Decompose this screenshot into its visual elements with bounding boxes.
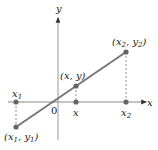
point-x2-y2-label: (x2, y2) [112, 36, 147, 49]
line-through-points-diagram: y x 0 x1 x x2 (x1, y1) (x, y) (x2, y2) [0, 0, 158, 150]
axis-point-x2 [123, 99, 128, 104]
diagram-canvas: y x 0 x1 x x2 (x1, y1) (x, y) (x2, y2) [0, 0, 158, 150]
point-x1-y1 [13, 124, 18, 129]
axis-point-x [73, 99, 78, 104]
y-axis-label: y [55, 3, 62, 14]
x-axis-point-label: x [73, 107, 79, 118]
point-x2-y2 [123, 49, 128, 54]
origin-label: 0 [51, 105, 57, 116]
x1-axis-label: x1 [12, 88, 22, 101]
x2-axis-label: x2 [121, 107, 132, 120]
point-x1-y1-label: (x1, y1) [4, 131, 39, 144]
x-axis-label: x [147, 97, 153, 108]
point-x-y [73, 83, 78, 88]
point-x-y-label: (x, y) [60, 70, 86, 81]
line-segment [16, 52, 126, 127]
